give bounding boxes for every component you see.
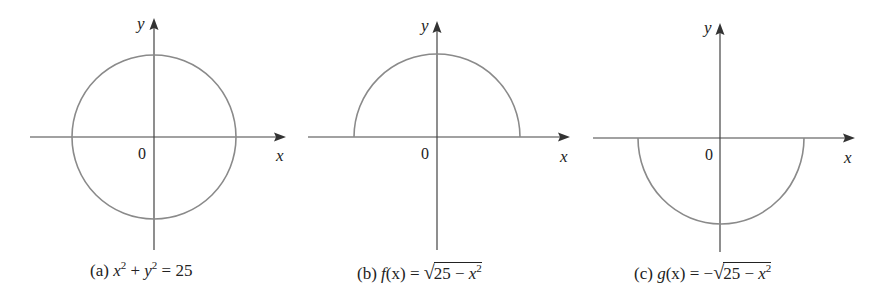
caption-eq: = (685, 264, 703, 283)
lower-semicircle-curve (638, 138, 804, 224)
x-axis-label: x (844, 149, 852, 166)
sqrt-expression: √25 − x2 (713, 262, 771, 282)
caption-arg: (x) (666, 264, 686, 283)
caption-exp: 2 (766, 262, 772, 274)
panel-c-lower-semicircle: y x 0 (c) g(x) = −√25 − x2 (0, 0, 893, 303)
caption-c: (c) g(x) = −√25 − x2 (634, 262, 771, 282)
y-axis-label: y (704, 19, 712, 36)
caption-tag: (c) (634, 264, 653, 283)
plot-c (0, 0, 893, 303)
origin-label: 0 (705, 147, 713, 163)
radicand-num: 25 − (723, 264, 758, 283)
caption-fn: g (657, 264, 666, 283)
caption-sign: − (704, 264, 714, 283)
radicand-var: x (758, 264, 766, 283)
